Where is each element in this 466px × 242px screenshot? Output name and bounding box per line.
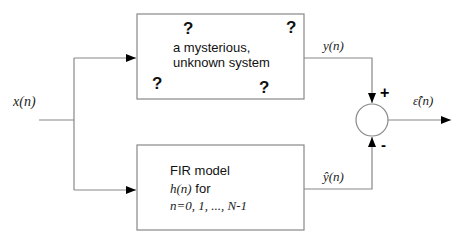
system-identification-diagram: x(n) a mysterious, unknown system ? ? ? … bbox=[0, 0, 466, 242]
unknown-system-label-line2: unknown system bbox=[173, 55, 270, 70]
input-label: x(n) bbox=[12, 94, 36, 110]
question-mark-icon: ? bbox=[152, 74, 162, 93]
question-mark-icon: ? bbox=[286, 18, 296, 37]
fir-model-title: FIR model bbox=[170, 163, 230, 178]
fir-model-box bbox=[137, 145, 304, 230]
minus-sign: - bbox=[381, 136, 386, 153]
impulse-response-var: h(n) bbox=[170, 181, 192, 196]
summing-junction bbox=[356, 104, 388, 136]
plus-sign: + bbox=[380, 84, 389, 101]
fir-model-impulse-response: h(n) for bbox=[170, 181, 211, 196]
y-hat-signal-label: ŷ(n) bbox=[321, 169, 344, 184]
y-signal-label: y(n) bbox=[321, 38, 344, 53]
impulse-response-for: for bbox=[192, 181, 211, 196]
question-mark-icon: ? bbox=[183, 19, 193, 38]
unknown-system-label-line1: a mysterious, bbox=[173, 40, 250, 55]
question-mark-icon: ? bbox=[259, 78, 269, 97]
error-signal-label: ε̂(n) bbox=[413, 93, 433, 108]
fir-model-index-range: n=0, 1, ..., N-1 bbox=[170, 198, 247, 213]
y-signal-path bbox=[304, 58, 372, 103]
input-signal-path bbox=[39, 58, 74, 190]
